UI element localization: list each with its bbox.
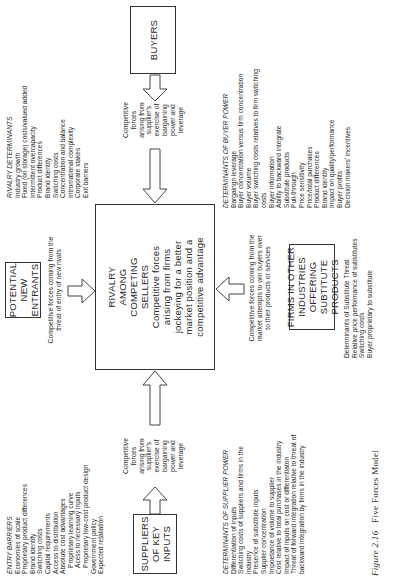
list-item: Brand identify: [29, 465, 37, 574]
suppliers-box: SUPPLIERS OF KEY INPUTS: [133, 514, 177, 574]
entry-barriers-heading: ENTRY BARRIERS: [6, 465, 14, 574]
box-body-line: jockeying for a better: [172, 241, 183, 334]
substitute-threat-heading: Determinants of Substitute Threat: [343, 239, 351, 358]
note-line: Competitive: [122, 428, 130, 484]
note-line: supplier's: [145, 428, 153, 484]
list-item: Switching costs: [52, 86, 60, 198]
note-line: Competitive: [122, 92, 130, 148]
note-line: forces: [130, 428, 138, 484]
list-item: Switching costs: [36, 465, 44, 574]
box-title-line: OF KEY: [150, 526, 161, 562]
box-title-line: SELLERS: [139, 265, 150, 309]
box-body-line: market position and a: [183, 239, 194, 334]
list-item: Bargaingn leverage: [230, 69, 238, 208]
box-title-line: NEW ENTRANTS: [18, 263, 40, 317]
list-item: Fixed (on storage) costs/valued added: [21, 86, 29, 198]
list-item: Buyer proprietary to substitute: [366, 239, 374, 358]
list-item: costs: [260, 69, 268, 208]
list-item: Buyer information: [268, 69, 276, 208]
list-item: Brand identity: [321, 69, 329, 208]
box-title-line: INDUSTRIES OFFERING: [296, 245, 318, 329]
list-item: Capital requirements: [44, 465, 52, 574]
note-line: power and: [169, 92, 177, 148]
list-item: Impact on quality/performance: [328, 69, 336, 208]
list-item: Switching costs of suppliers and firms i…: [237, 435, 245, 574]
list-item: Access to distribution: [52, 465, 60, 574]
note-line: power and: [169, 428, 177, 484]
list-item: Expected retaliation: [97, 465, 105, 574]
potential-entrants-box: POTENTIAL NEW ENTRANTS: [5, 262, 41, 318]
substitute-threat-list: Determinants of Substitute Threat Relati…: [343, 239, 373, 358]
list-item: Product differences: [36, 86, 44, 198]
list-item: Switching costs: [358, 239, 366, 358]
entrants-force-note: Competitive forces coming from the threa…: [47, 225, 63, 355]
note-line: Competitive forces coming from the: [248, 218, 256, 358]
list-item: Decision makers' incentives: [344, 69, 352, 208]
list-item: Threat of forward integration relative t…: [290, 435, 298, 574]
figure-caption: Figure 2.16 Five Forces Model: [370, 450, 380, 576]
box-title-line: RIVALRY: [106, 266, 117, 307]
substitutes-box: FIRMS IN OTHER INDUSTRIES OFFERING SUBTI…: [289, 244, 335, 330]
list-item: Relative price performance of substitute…: [351, 239, 359, 358]
entry-barriers-list: ENTRY BARRIERS Economies of scale Propri…: [6, 465, 105, 574]
list-item: Buyer profits: [336, 69, 344, 208]
note-line: arising from: [138, 428, 146, 484]
list-item: Buyer volume: [245, 69, 253, 208]
list-item: Intermittent overcapacity: [29, 86, 37, 198]
arrow-left-icon: [142, 74, 168, 102]
caption-title: Five Forces Model: [370, 450, 380, 523]
list-item: Industry growth: [14, 86, 22, 198]
list-item: Buyer concentration versus firm concentr…: [237, 69, 245, 208]
buyers-box: BUYERS: [130, 6, 176, 74]
list-item: Presence of substitute inputs: [252, 435, 260, 574]
list-item: Supplier concentration: [260, 435, 268, 574]
arrow-right-icon: [142, 486, 168, 514]
note-line: leverage: [177, 92, 185, 148]
list-item: Price sensitivity: [298, 69, 306, 208]
list-item: Product differences: [313, 69, 321, 208]
list-item: Price/total purchases: [306, 69, 314, 208]
five-forces-diagram: ENTRY BARRIERS Economies of scale Propri…: [0, 0, 395, 580]
list-item: Economies of scale: [14, 465, 22, 574]
arrow-up-icon: [215, 276, 245, 302]
list-item: Proprietary product differences: [21, 465, 29, 574]
list-item: Proprietary learning curve: [67, 465, 75, 574]
list-item: Differentiation of inputs: [230, 435, 238, 574]
box-title-line: POTENTIAL: [7, 263, 18, 318]
note-line: leverage: [177, 428, 185, 484]
list-item: Pull-through: [290, 69, 298, 208]
list-item: Exit barriers: [82, 86, 90, 198]
box-title-line: AMONG: [117, 269, 128, 306]
arrow-down-icon: [68, 278, 96, 304]
supplier-power-heading: DETERMINANTS OF SUPPLIER POWER: [222, 435, 230, 574]
box-title-line: BUYERS: [148, 20, 159, 60]
list-item: Ability to backward integrate: [275, 69, 283, 208]
list-item: Acess to necessary inputs: [74, 465, 82, 574]
arrow-right-icon: [142, 370, 168, 425]
box-title-line: SUBTITUTE PRODUCTS: [318, 245, 340, 329]
list-item: Impact of inputs on cost or differentiat…: [283, 435, 291, 574]
box-title-line: INPUTS: [161, 526, 172, 562]
supplier-power-list: DETERMINANTS OF SUPPLIER POWER Different…: [222, 435, 306, 574]
supplier-force-note: Competitive forces arising from supplier…: [122, 428, 184, 484]
rivalry-determinants-list: RIVALRY DETERMINANTS Industry growth Fix…: [6, 86, 90, 198]
rivalry-box: RIVALRY AMONG COMPETING SELLERS Competit…: [95, 204, 215, 370]
note-line: Competitive forces coming from the: [47, 225, 55, 355]
box-title-line: FIRMS IN OTHER: [285, 247, 296, 327]
arrow-left-icon: [142, 148, 168, 204]
list-item: Proprietary low-cost product design: [82, 465, 90, 574]
note-line: bargaining: [161, 428, 169, 484]
box-title-line: COMPETING: [128, 257, 139, 316]
box-body-line: Competitive forces: [150, 246, 161, 328]
note-line: market attempts to win buyers over: [256, 218, 264, 358]
buyer-power-heading: DETERMINANTS OF BUYER POWER: [222, 69, 230, 208]
box-body-line: arising from firms: [161, 249, 172, 325]
note-line: exercise of: [153, 428, 161, 484]
list-item: Buyer switching costs relatives to firm …: [252, 69, 260, 208]
list-item: Concentration and balance: [59, 86, 67, 198]
list-item: industry: [245, 435, 253, 574]
caption-number: Figure 2.16: [370, 531, 380, 576]
list-item: Absolute cost advantages: [59, 465, 67, 574]
box-title-line: SUPPLIERS: [139, 516, 150, 571]
list-item: Corporate stakes: [74, 86, 82, 198]
